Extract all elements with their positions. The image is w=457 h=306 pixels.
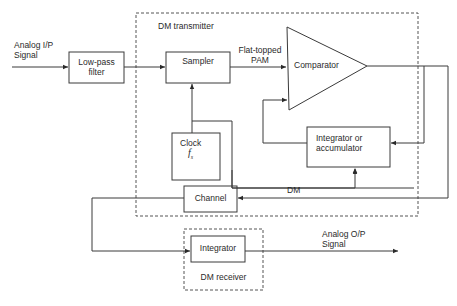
pam-label-line1: Flat-topped bbox=[230, 45, 290, 55]
output-label-line2: Signal bbox=[322, 239, 365, 249]
integrator-tx-line1: Integrator or bbox=[316, 133, 362, 143]
comparator-label: Comparator bbox=[294, 60, 339, 70]
output-label-line1: Analog O/P bbox=[322, 229, 365, 239]
lpf-label-line2: filter bbox=[69, 67, 124, 77]
low-pass-filter-label: Low-pass filter bbox=[69, 57, 124, 77]
dm-transmitter-label: DM transmitter bbox=[158, 21, 214, 31]
clock-label: Clock fs bbox=[180, 138, 201, 162]
clock-frequency: fs bbox=[180, 148, 201, 162]
dm-transmitter-boundary bbox=[136, 13, 418, 216]
channel-label: Channel bbox=[184, 193, 237, 203]
input-label-line2: Signal bbox=[14, 50, 53, 60]
pam-label-line2: PAM bbox=[230, 55, 290, 65]
dm-signal-label: DM bbox=[287, 185, 300, 195]
integrator-accumulator-label: Integrator or accumulator bbox=[316, 133, 362, 153]
input-label-line1: Analog I/P bbox=[14, 40, 53, 50]
lpf-label-line1: Low-pass bbox=[69, 57, 124, 67]
flat-topped-pam-label: Flat-topped PAM bbox=[230, 45, 290, 65]
analog-input-label: Analog I/P Signal bbox=[14, 40, 53, 60]
dm-receiver-label: DM receiver bbox=[184, 272, 263, 282]
sampler-label: Sampler bbox=[166, 56, 230, 66]
integrator-tx-line2: accumulator bbox=[316, 143, 362, 153]
dm-block-diagram bbox=[0, 0, 457, 306]
integrator-rx-label: Integrator bbox=[191, 243, 245, 253]
analog-output-label: Analog O/P Signal bbox=[322, 229, 365, 249]
